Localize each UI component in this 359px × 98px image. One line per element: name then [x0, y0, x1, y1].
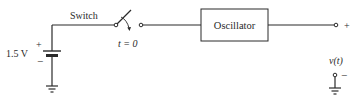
circuit-diagram: + − 1.5 V Switch t = 0 Oscillator + v(t)…: [0, 0, 359, 98]
ground-icon: [329, 88, 341, 94]
switch-label: Switch: [70, 10, 98, 21]
battery-minus-label: −: [37, 55, 43, 67]
oscillator-label: Oscillator: [214, 20, 256, 31]
battery-voltage-label: 1.5 V: [6, 48, 29, 59]
switch-icon: [114, 10, 143, 31]
battery-icon: [43, 51, 61, 56]
output-plus-terminal: [334, 23, 338, 27]
ground-icon: [46, 86, 58, 92]
output-minus-label: −: [341, 69, 347, 81]
output-minus-terminal: [333, 73, 337, 77]
output-voltage-label: v(t): [329, 55, 344, 67]
switch-time-label: t = 0: [118, 38, 138, 49]
battery-plus-label: +: [36, 39, 42, 50]
output-plus-label: +: [344, 20, 350, 31]
